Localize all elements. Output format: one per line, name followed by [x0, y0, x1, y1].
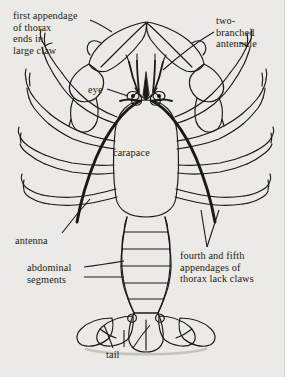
leader-tail-3: [133, 325, 150, 348]
label-fourth-fifth-appendages: fourth and fifth appendages of thorax la…: [180, 250, 254, 285]
right-claw: [147, 22, 224, 132]
leader-fourth-1: [201, 210, 207, 247]
leader-claw: [90, 20, 112, 32]
head-region: [126, 54, 166, 105]
label-tail: tail: [106, 349, 120, 361]
label-carapace: carapace: [113, 147, 150, 159]
leader-abdominal-1: [84, 261, 124, 267]
lobster-drawing: [0, 0, 291, 383]
leader-antenna: [62, 199, 90, 233]
tail-fan: [77, 313, 215, 352]
label-eye: eye: [88, 84, 103, 96]
label-antenna: antenna: [15, 235, 48, 247]
label-abdominal-segments: abdominal segments: [27, 262, 71, 285]
right-walking-legs: [175, 29, 274, 205]
label-first-appendage: first appendage of thorax ends in large …: [13, 10, 78, 56]
label-antennule: two- branched antennule: [216, 15, 257, 50]
lobster-anatomy-figure: first appendage of thorax ends in large …: [0, 0, 291, 383]
left-claw: [69, 22, 146, 132]
abdominal-segments: [121, 217, 171, 313]
leader-eye: [107, 89, 128, 96]
